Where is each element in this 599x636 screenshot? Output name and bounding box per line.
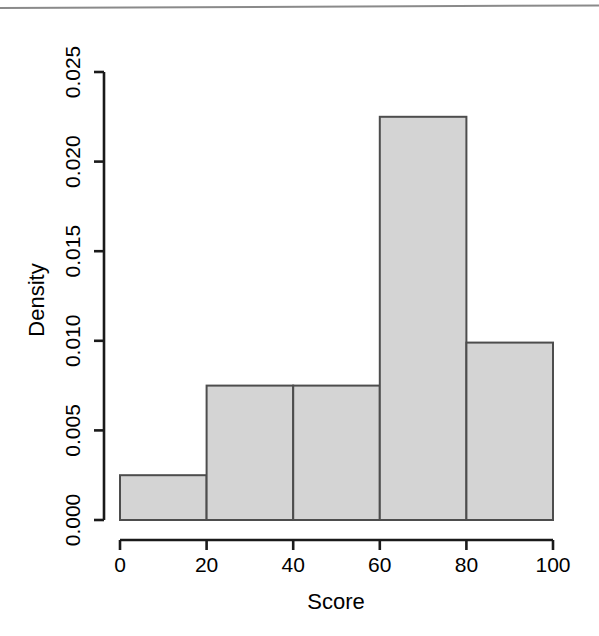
- histogram-plot: 0.025 0.020 0.015 0.010 0.005 0.000 0 20…: [0, 0, 599, 636]
- histogram-bar: [380, 117, 467, 520]
- y-tick-labels: 0.025 0.020 0.015 0.010 0.005 0.000: [61, 46, 84, 547]
- y-axis-title: Density: [24, 263, 49, 336]
- x-tick-label: 0: [114, 553, 126, 576]
- x-tick-label: 40: [282, 553, 305, 576]
- x-tick-label: 100: [535, 553, 570, 576]
- bars-group: [120, 117, 553, 520]
- y-tick-label: 0.000: [61, 494, 84, 547]
- y-axis: [94, 72, 104, 520]
- x-axis: [120, 540, 553, 550]
- x-tick-label: 20: [195, 553, 218, 576]
- x-tick-label: 60: [368, 553, 391, 576]
- x-tick-label: 80: [455, 553, 478, 576]
- x-axis-title: Score: [307, 589, 364, 614]
- y-tick-label: 0.020: [61, 135, 84, 188]
- histogram-bar: [293, 386, 380, 520]
- y-tick-label: 0.015: [61, 225, 84, 278]
- y-tick-label: 0.010: [61, 315, 84, 368]
- x-tick-labels: 0 20 40 60 80 100: [114, 553, 570, 576]
- histogram-bar: [207, 386, 294, 520]
- y-tick-label: 0.025: [61, 46, 84, 99]
- histogram-bar: [120, 475, 207, 520]
- y-tick-label: 0.005: [61, 404, 84, 457]
- histogram-bar: [466, 343, 553, 520]
- histogram-figure: 0.025 0.020 0.015 0.010 0.005 0.000 0 20…: [0, 0, 599, 636]
